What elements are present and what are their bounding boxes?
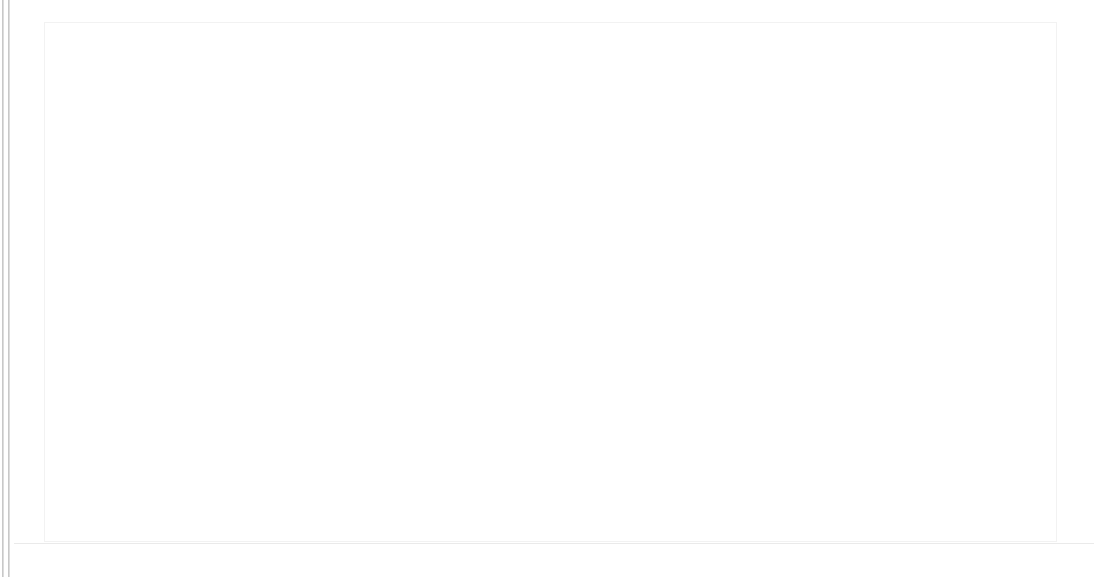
gutter-rule-2 [3, 0, 4, 577]
map-ocean-background [46, 23, 1055, 541]
bottom-divider [14, 543, 1094, 544]
gutter-rule-4 [9, 0, 10, 577]
screenshot-root [0, 0, 1094, 577]
vertical-scrollbar[interactable] [0, 0, 14, 577]
world-choropleth-map[interactable] [45, 23, 1056, 541]
map-card [44, 22, 1057, 542]
